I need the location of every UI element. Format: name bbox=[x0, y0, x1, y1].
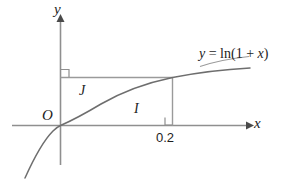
log-curve bbox=[25, 68, 250, 178]
right-angle-marker-y-axis-icon bbox=[61, 70, 69, 78]
right-angle-marker-x-axis-icon bbox=[165, 118, 172, 126]
x-axis-tick-label: 0.2 bbox=[156, 131, 174, 144]
y-axis-label: y bbox=[54, 2, 61, 17]
region-label-j: J bbox=[79, 84, 85, 98]
curve-equation-operator: = ln(1 + bbox=[205, 46, 257, 61]
x-axis-label: x bbox=[254, 116, 261, 131]
y-axis bbox=[57, 14, 65, 165]
curve-equation-label: y = ln(1 + x) bbox=[199, 47, 268, 61]
curve-equation-paren: ) bbox=[264, 46, 269, 61]
region-label-i: I bbox=[134, 102, 139, 116]
origin-label: O bbox=[42, 108, 53, 123]
x-axis-arrow-icon bbox=[246, 122, 254, 130]
function-graph-figure bbox=[0, 0, 285, 182]
